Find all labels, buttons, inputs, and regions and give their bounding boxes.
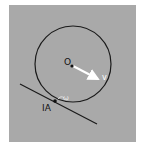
- velocity-label: v: [102, 73, 107, 82]
- tangent-surface-line: [20, 84, 97, 124]
- rolling-disc-diagram: O v IA ω: [0, 0, 144, 150]
- angular-velocity-label: ω: [63, 94, 69, 102]
- disc-circle: [35, 26, 111, 102]
- velocity-arrow: [73, 66, 98, 79]
- contact-point-label: IA: [42, 103, 52, 113]
- center-label: O: [64, 57, 71, 67]
- contact-point: [53, 99, 57, 103]
